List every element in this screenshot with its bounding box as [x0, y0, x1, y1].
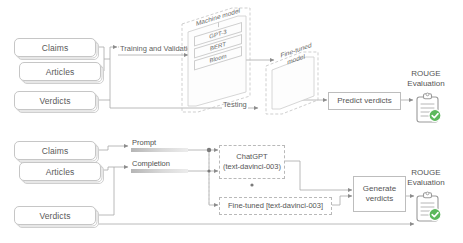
input-label: Claims: [42, 146, 69, 156]
stack-top: Articles: [19, 62, 101, 81]
input-label: Articles: [46, 167, 75, 177]
chatgpt-name: ChatGPT: [236, 152, 267, 162]
predict-verdicts-box: Predict verdicts: [328, 92, 401, 110]
model-panel-connector: [218, 22, 219, 27]
input-claims-top: Claims: [14, 38, 94, 55]
input-label: Verdicts: [39, 211, 70, 221]
stack-top: Verdicts: [14, 91, 96, 110]
input-claims-bottom: Claims: [14, 141, 94, 158]
completion-label: Completion: [131, 159, 188, 168]
input-verdicts-top: Verdicts: [14, 91, 94, 108]
finetuned-davinci-box: Fine-tuned [text-davinci-003]: [219, 197, 332, 215]
stack-top: Claims: [14, 38, 96, 57]
input-label: Articles: [46, 67, 75, 77]
stack-top: Claims: [14, 141, 96, 160]
completion-field: Completion: [131, 159, 188, 173]
completion-bar: [131, 169, 188, 173]
rouge-caption-line1: ROUGE: [395, 168, 457, 178]
clipboard-check-icon: [413, 92, 443, 124]
chatgpt-box: ChatGPT (text-davinci-003): [219, 145, 285, 179]
input-label: Claims: [42, 43, 69, 53]
generate-line1: Generate: [363, 184, 396, 194]
rouge-caption-line1: ROUGE: [395, 69, 457, 79]
rouge-evaluation-top: ROUGE Evaluation: [395, 69, 457, 89]
input-articles-top: Articles: [19, 62, 99, 79]
stack-top: Verdicts: [14, 206, 96, 225]
clipboard-check-icon: [413, 191, 443, 223]
diagram-canvas: Claims Articles Verdicts Training and Va…: [0, 0, 463, 243]
prompt-label: Prompt: [131, 138, 188, 147]
rouge-caption-line2: Evaluation: [395, 79, 457, 89]
rouge-evaluation-bottom: ROUGE Evaluation: [395, 168, 457, 188]
stack-top: Articles: [19, 162, 101, 181]
prompt-bar: [131, 148, 188, 152]
input-articles-bottom: Articles: [19, 162, 99, 179]
input-verdicts-bottom: Verdicts: [14, 206, 94, 223]
input-label: Verdicts: [39, 96, 70, 106]
generate-line2: verdicts: [366, 194, 394, 204]
prompt-field: Prompt: [131, 138, 188, 152]
chatgpt-variant: (text-davinci-003): [223, 162, 281, 172]
rouge-caption-line2: Evaluation: [395, 178, 457, 188]
